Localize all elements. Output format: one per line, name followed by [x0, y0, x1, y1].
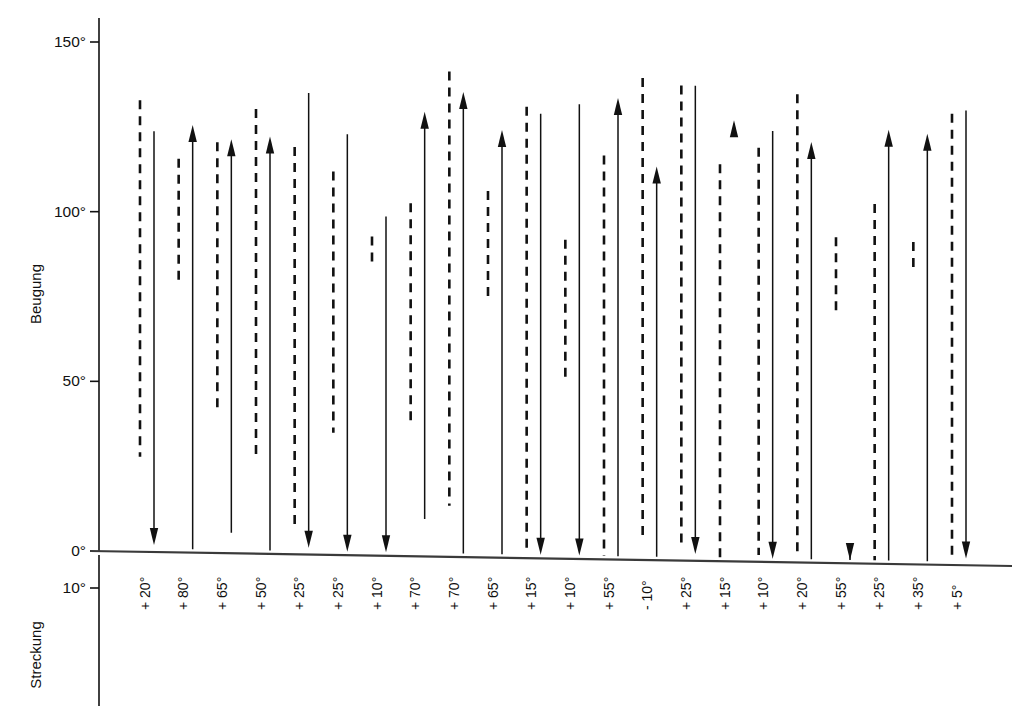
x-tick-label-6: + 10° [369, 577, 385, 610]
arrow-head [266, 136, 274, 153]
arrow-head [382, 535, 390, 552]
x-tick-label-2: + 65° [214, 577, 230, 610]
x-tick-label-8: + 70° [446, 577, 462, 610]
arrow-head [150, 528, 158, 545]
arrow-head [846, 543, 854, 560]
arrow-head [459, 92, 467, 109]
arrow-head [536, 538, 544, 555]
arrow-head [691, 537, 699, 554]
x-tick-label-18: + 55° [833, 577, 849, 610]
x-tick-label-13: - 10° [639, 580, 655, 610]
beugung-streckung-chart: 150°100°50°0°10°BeugungStreckung + 20°+ … [0, 0, 1032, 726]
y-tick-label-50: 50° [63, 372, 86, 389]
x-tick-label-7: + 70° [407, 577, 423, 610]
arrow-head [498, 130, 506, 147]
y-axis-title-beugung: Beugung [27, 264, 44, 324]
chart-root: 150°100°50°0°10°BeugungStreckung + 20°+ … [0, 0, 1032, 726]
arrow-head [614, 98, 622, 115]
arrow-head [304, 531, 312, 548]
x-tick-label-12: + 55° [601, 577, 617, 610]
arrow-head [923, 134, 931, 151]
x-tick-label-11: + 10° [562, 577, 578, 610]
x-tick-label-15: + 15° [717, 577, 733, 610]
y-tick-label-streckung-10: 10° [63, 579, 86, 596]
x-tick-label-0: + 20° [137, 577, 153, 610]
y-axis-title-streckung: Streckung [27, 621, 44, 689]
arrow-head [343, 535, 351, 552]
x-tick-label-19: + 25° [871, 577, 887, 610]
arrow-head [962, 541, 970, 558]
arrow-head [227, 139, 235, 156]
x-tick-label-20: + 35° [910, 577, 926, 610]
x-tick-label-1: + 80° [175, 577, 191, 610]
y-tick-label-150: 150° [54, 33, 86, 50]
arrow-head [575, 538, 583, 555]
x-tick-label-21: + 5° [949, 585, 965, 610]
arrow-head [730, 120, 738, 137]
x-tick-label-14: + 25° [678, 577, 694, 610]
x-tick-label-9: + 65° [485, 577, 501, 610]
x-tick-label-10: + 15° [523, 577, 539, 610]
arrow-head [188, 125, 196, 142]
arrow-head [884, 130, 892, 147]
y-tick-label-0: 0° [71, 542, 86, 559]
arrow-head [807, 142, 815, 159]
x-tick-label-16: + 10° [755, 577, 771, 610]
arrow-head [768, 542, 776, 559]
x-tick-label-4: + 25° [291, 577, 307, 610]
x-tick-label-5: + 25° [330, 577, 346, 610]
y-tick-label-100: 100° [54, 203, 86, 220]
arrow-head [420, 112, 428, 129]
series-layer [140, 72, 970, 562]
x-axis-labels: + 20°+ 80°+ 65°+ 50°+ 25°+ 25°+ 10°+ 70°… [137, 577, 965, 610]
arrow-head [652, 167, 660, 184]
x-tick-label-3: + 50° [253, 577, 269, 610]
x-tick-label-17: + 20° [794, 577, 810, 610]
